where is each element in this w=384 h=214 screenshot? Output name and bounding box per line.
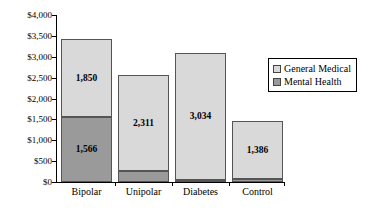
x-axis-tick-mark [172, 182, 173, 186]
y-axis-tick-mark [52, 161, 56, 162]
stacked-bar-chart: $4,000$3,500$3,000$2,500$2,000$1,500$1,0… [0, 0, 384, 214]
y-axis-tick-mark [52, 119, 56, 120]
y-axis-tick-mark [52, 15, 56, 16]
x-axis-tick-label: Bipolar [57, 186, 117, 198]
bar-stack: 1,8501,566 [61, 39, 112, 182]
bar-segment-mental-health [175, 180, 226, 183]
bar-value-label: 2,311 [119, 118, 168, 128]
y-axis-tick-label: $3,500 [0, 31, 52, 40]
y-axis-tick-mark [52, 36, 56, 37]
bar-value-label: 1,850 [62, 73, 111, 83]
legend-label: General Medical [284, 63, 351, 74]
y-axis-tick-mark [52, 182, 56, 183]
bar-value-label: 1,566 [62, 144, 111, 154]
y-axis-tick-label: $2,000 [0, 94, 52, 103]
x-axis: BipolarUnipolarDiabetesControl [57, 186, 284, 208]
bar-segment-mental-health [118, 171, 169, 182]
x-axis-tick-label: Unipolar [114, 186, 174, 198]
x-axis-tick-mark [115, 182, 116, 186]
x-axis-tick-label: Control [228, 186, 288, 198]
legend-swatch-icon [273, 65, 281, 73]
y-axis-tick-mark [52, 140, 56, 141]
bar-segment-mental-health: 1,566 [61, 117, 112, 182]
bar-value-label: 1,386 [233, 145, 282, 155]
y-axis: $4,000$3,500$3,000$2,500$2,000$1,500$1,0… [0, 0, 52, 214]
bar-segment-general-medical: 3,034 [175, 53, 226, 180]
bar-segment-general-medical: 1,386 [232, 121, 283, 179]
y-axis-tick-label: $1,500 [0, 115, 52, 124]
y-axis-tick-label: $1,000 [0, 136, 52, 145]
chart-legend: General MedicalMental Health [268, 58, 357, 92]
x-axis-tick-mark [284, 182, 285, 186]
y-axis-tick-label: $0 [0, 178, 52, 187]
plot-area: 1,8501,5662592,311493,034761,386 [57, 15, 284, 182]
x-axis-tick-label: Diabetes [171, 186, 231, 198]
bar-segment-mental-health [232, 179, 283, 182]
legend-swatch-icon [273, 78, 281, 86]
bar-segment-general-medical: 2,311 [118, 75, 169, 171]
y-axis-tick-mark [52, 57, 56, 58]
y-axis-tick-label: $4,000 [0, 11, 52, 20]
y-axis-tick-mark [52, 99, 56, 100]
y-axis-tick-mark [52, 78, 56, 79]
bar-value-label: 3,034 [176, 111, 225, 121]
x-axis-tick-mark [229, 182, 230, 186]
legend-item: General Medical [273, 62, 351, 75]
y-axis-tick-label: $3,000 [0, 52, 52, 61]
bar-stack: 2592,311 [118, 75, 169, 182]
bar-stack: 493,034 [175, 53, 226, 182]
y-axis-tick-label: $500 [0, 157, 52, 166]
legend-item: Mental Health [273, 75, 351, 88]
y-axis-tick-label: $2,500 [0, 73, 52, 82]
bar-stack: 761,386 [232, 121, 283, 182]
legend-label: Mental Health [284, 76, 341, 87]
bar-segment-general-medical: 1,850 [61, 39, 112, 116]
